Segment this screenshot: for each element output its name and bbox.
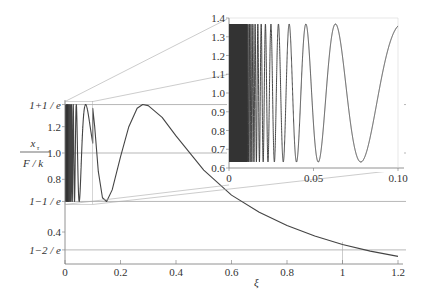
x-tick-label: 0.8: [280, 266, 294, 278]
y-axis-label-numerator: x: [30, 137, 36, 149]
x-tick-label: 1: [340, 266, 346, 278]
inset-y-tick-label: 0.9: [211, 106, 225, 118]
svg-text:τ: τ: [37, 144, 40, 152]
x-tick-label: 0.4: [169, 266, 183, 278]
inset-y-tick-label: 1.4: [211, 12, 225, 24]
y-tick-label: 1−1 / e: [29, 195, 61, 207]
inset-x-tick-label: 0: [226, 172, 232, 184]
chart-figure: 00.20.40.60.811.2ξ1+1 / e1.21.00.81−1 / …: [0, 0, 433, 299]
y-axis-label-denominator: F / k: [22, 157, 44, 169]
x-tick-label: 0.6: [225, 266, 239, 278]
inset-x-tick-label: 0.05: [304, 172, 324, 184]
inset-y-tick-label: 0.6: [211, 162, 225, 174]
x-tick-label: 0.2: [114, 266, 128, 278]
inset-y-tick-label: 1.1: [211, 68, 225, 80]
inset-y-tick-label: 1.0: [211, 87, 225, 99]
inset-y-tick-label: 1.2: [211, 50, 225, 62]
y-tick-label: 1−2 / e: [29, 244, 61, 256]
inset-y-tick-label: 0.7: [211, 143, 225, 155]
y-tick-label: 1.0: [47, 147, 61, 159]
y-tick-label: 1+1 / e: [29, 99, 61, 111]
x-tick-label: 0: [62, 266, 68, 278]
inset-plot: 0.60.70.80.91.01.11.21.31.400.050.10: [211, 12, 408, 184]
inset-y-tick-label: 1.3: [211, 31, 225, 43]
y-tick-label: 0.4: [47, 226, 61, 238]
inset-x-tick-label: 0.10: [388, 172, 408, 184]
y-tick-label: 0.8: [47, 173, 61, 185]
x-axis-label: ξ: [254, 276, 259, 289]
y-tick-label: 1.2: [47, 121, 61, 133]
x-tick-label: 1.2: [391, 266, 405, 278]
inset-y-tick-label: 0.8: [211, 125, 225, 137]
